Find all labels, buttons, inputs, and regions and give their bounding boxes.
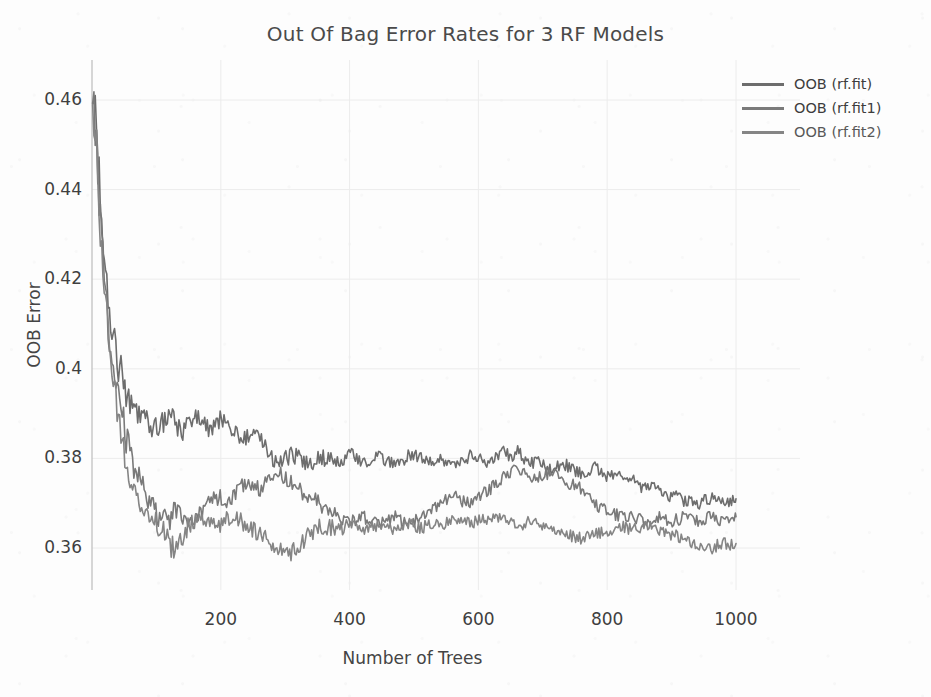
y-axis-title: OOB Error (24, 265, 44, 385)
legend-line-swatch (742, 107, 784, 110)
y-tick-label: 0.4 (12, 358, 82, 378)
chart-legend: OOB (rf.fit)OOB (rf.fit1)OOB (rf.fit2) (742, 72, 927, 144)
x-tick-label: 800 (572, 609, 642, 629)
series-line (93, 92, 736, 530)
series-line (93, 95, 736, 509)
y-tick-label: 0.38 (12, 447, 82, 467)
legend-label: OOB (rf.fit) (794, 76, 872, 92)
x-axis-title: Number of Trees (90, 648, 735, 668)
x-tick-label: 400 (315, 609, 385, 629)
legend-line-swatch (742, 83, 784, 86)
series-line (93, 105, 736, 561)
gridlines (92, 60, 800, 590)
chart-page: Out Of Bag Error Rates for 3 RF Models 0… (0, 0, 931, 697)
legend-item[interactable]: OOB (rf.fit) (742, 72, 927, 96)
y-tick-label: 0.46 (12, 89, 82, 109)
x-tick-label: 1000 (701, 609, 771, 629)
x-tick-label: 600 (443, 609, 513, 629)
legend-item[interactable]: OOB (rf.fit2) (742, 120, 927, 144)
y-tick-label: 0.36 (12, 537, 82, 557)
legend-label: OOB (rf.fit2) (794, 124, 881, 140)
legend-item[interactable]: OOB (rf.fit1) (742, 96, 927, 120)
legend-label: OOB (rf.fit1) (794, 100, 881, 116)
y-tick-label: 0.44 (12, 179, 82, 199)
y-tick-label: 0.42 (12, 268, 82, 288)
x-tick-label: 200 (186, 609, 256, 629)
legend-line-swatch (742, 131, 784, 134)
series-lines (93, 92, 736, 561)
